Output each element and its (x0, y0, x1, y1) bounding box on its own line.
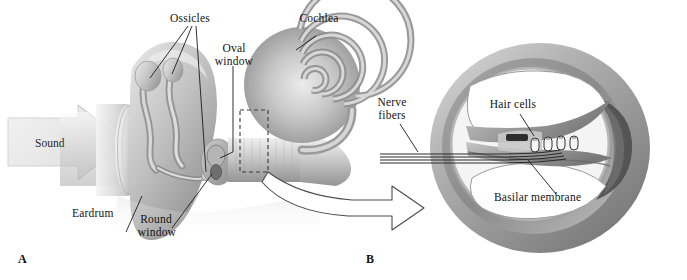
label-round-window-line2: window (124, 226, 190, 239)
label-sound: Sound (35, 137, 64, 149)
hair-cell (570, 136, 578, 150)
label-oval-window-line2: window (200, 55, 268, 68)
oval-window-opening (207, 145, 225, 167)
panel-letter-b: B (366, 252, 374, 267)
label-nerve-fibers-line1: Nerve (368, 96, 416, 109)
tectorial-dark-bar (506, 134, 528, 141)
round-window-opening (211, 165, 222, 180)
label-oval-window-line1: Oval (206, 42, 262, 55)
label-nerve-fibers-line2: fibers (366, 109, 418, 122)
panel-letter-a: A (18, 252, 27, 267)
ear-anatomy-figure: Ossicles Oval window Cochlea Sound Eardr… (0, 0, 687, 280)
figure-canvas (0, 0, 687, 280)
label-basilar-membrane: Basilar membrane (494, 191, 581, 204)
hair-cell (557, 136, 565, 150)
panel-b-illustration (380, 43, 650, 253)
hair-cell (531, 138, 539, 152)
label-hair-cells: Hair cells (479, 98, 547, 111)
label-cochlea: Cochlea (290, 12, 348, 25)
label-eardrum: Eardrum (72, 207, 114, 220)
label-ossicles: Ossicles (158, 12, 222, 25)
label-round-window-line1: Round (128, 213, 184, 226)
hair-cell (544, 137, 552, 151)
